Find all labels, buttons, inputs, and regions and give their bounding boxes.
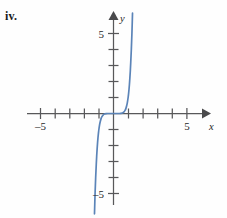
y-axis-name: y bbox=[119, 13, 125, 24]
y-axis-label-5: 5 bbox=[99, 28, 105, 40]
y-axis-label--5: –5 bbox=[92, 188, 105, 200]
x-axis-name: x bbox=[208, 121, 214, 132]
y-axis-arrow-icon bbox=[109, 11, 119, 20]
x-axis-arrow-icon bbox=[202, 109, 211, 119]
figure-container: iv. bbox=[0, 0, 227, 218]
x-axis-label-5: 5 bbox=[184, 120, 190, 132]
coordinate-plot: –5 5 5 –5 x y bbox=[0, 0, 227, 218]
x-axis-label--5: –5 bbox=[34, 120, 47, 132]
